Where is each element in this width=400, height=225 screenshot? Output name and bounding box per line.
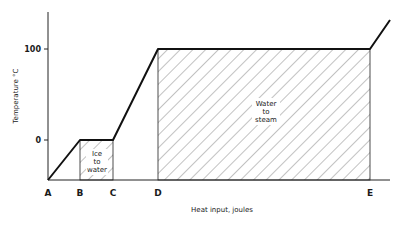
y-axis-title: Temperature °C bbox=[12, 68, 20, 124]
svg-text:water: water bbox=[87, 166, 107, 174]
ice-to-water-label: Ice to water bbox=[86, 149, 108, 175]
svg-text:Water: Water bbox=[256, 100, 277, 108]
point-label-a: A bbox=[45, 188, 52, 198]
y-tick-label-100: 100 bbox=[24, 45, 41, 54]
water-to-steam-label: Water to steam bbox=[252, 98, 280, 125]
svg-text:to: to bbox=[93, 158, 100, 166]
heating-curve-chart: 100 0 A B C D E Heat input, joules Tempe… bbox=[0, 0, 400, 225]
svg-text:Ice: Ice bbox=[92, 150, 102, 158]
point-label-c: C bbox=[110, 188, 117, 198]
svg-text:to: to bbox=[262, 108, 269, 116]
point-label-d: D bbox=[154, 188, 161, 198]
x-axis-title: Heat input, joules bbox=[191, 206, 253, 214]
point-label-b: B bbox=[77, 188, 84, 198]
svg-text:steam: steam bbox=[255, 116, 277, 124]
y-tick-label-0: 0 bbox=[35, 136, 41, 145]
point-label-e: E bbox=[367, 188, 373, 198]
